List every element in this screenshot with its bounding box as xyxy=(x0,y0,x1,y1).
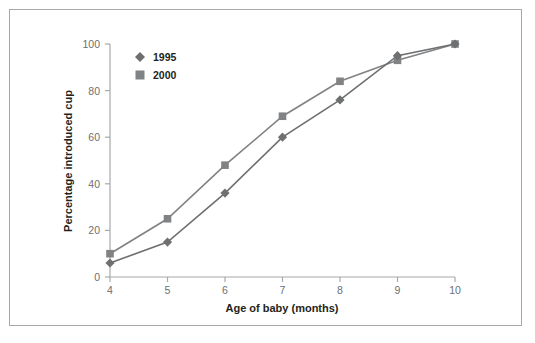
data-point xyxy=(105,258,114,267)
y-tick-label-100: 100 xyxy=(82,38,100,50)
data-point xyxy=(164,215,172,223)
x-tick-label-4: 4 xyxy=(107,284,113,296)
x-tick-label-9: 9 xyxy=(395,284,401,296)
y-tick-label-80: 80 xyxy=(88,85,100,97)
y-tick-label-20: 20 xyxy=(88,224,100,236)
x-tick-marks xyxy=(110,277,455,282)
data-point xyxy=(336,77,344,85)
chart-figure: 0 20 40 60 80 100 4 5 6 7 8 9 10 Age of … xyxy=(0,0,535,343)
y-tick-label-0: 0 xyxy=(94,271,100,283)
x-tick-label-5: 5 xyxy=(165,284,171,296)
legend-label-1995: 1995 xyxy=(153,51,177,63)
x-tick-label-8: 8 xyxy=(337,284,343,296)
x-tick-label-10: 10 xyxy=(449,284,461,296)
y-axis-title: Percentage introduced cup xyxy=(62,90,74,232)
legend-diamond-icon xyxy=(135,52,145,62)
legend-square-icon xyxy=(136,71,145,80)
x-tick-label-6: 6 xyxy=(222,284,228,296)
data-point xyxy=(221,161,229,169)
chart-legend: 1995 2000 xyxy=(135,51,177,81)
data-point xyxy=(279,112,287,120)
x-axis-title: Age of baby (months) xyxy=(225,302,338,314)
line-chart: 0 20 40 60 80 100 4 5 6 7 8 9 10 Age of … xyxy=(0,0,535,343)
y-tick-label-40: 40 xyxy=(88,178,100,190)
y-tick-label-60: 60 xyxy=(88,131,100,143)
data-point xyxy=(106,250,114,258)
x-tick-label-7: 7 xyxy=(280,284,286,296)
y-tick-marks xyxy=(105,44,110,277)
legend-label-2000: 2000 xyxy=(153,69,177,81)
